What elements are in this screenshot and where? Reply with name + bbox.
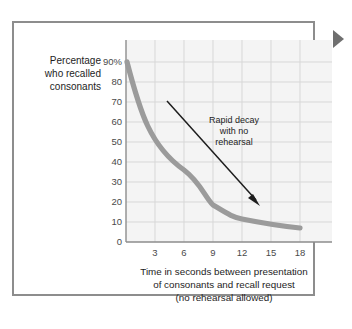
y-axis-title-line-1: Percentage <box>50 55 102 66</box>
x-tick-9: 9 <box>210 247 215 258</box>
y-tick-80: 80 <box>111 76 122 87</box>
x-axis-title-line-1: Time in seconds between presentation <box>140 266 307 277</box>
y-tick-30: 30 <box>111 176 122 187</box>
y-tick-50: 50 <box>111 136 122 147</box>
x-tick-15: 15 <box>266 247 277 258</box>
y-axis-title-line-3: consonants <box>50 81 101 92</box>
y-axis-title-line-2: who recalled <box>44 68 101 79</box>
y-axis-title: Percentage who recalled consonants <box>44 55 102 92</box>
y-tick-90: 90% <box>103 56 123 67</box>
x-tick-18: 18 <box>295 247 306 258</box>
x-tick-12: 12 <box>237 247 248 258</box>
x-axis-title: Time in seconds between presentation of … <box>140 266 307 303</box>
y-axis-tick-labels: 90% 80 70 60 50 40 30 20 10 0 <box>103 56 123 247</box>
annotation-line-2: with no <box>219 126 249 136</box>
annotation-line-3: rehearsal <box>215 137 253 147</box>
y-tick-60: 60 <box>111 116 122 127</box>
x-axis-title-line-2: of consonants and recall request <box>153 279 295 290</box>
y-tick-10: 10 <box>111 216 122 227</box>
x-tick-6: 6 <box>181 247 186 258</box>
x-axis-title-line-3: (no rehearsal allowed) <box>176 292 273 303</box>
y-tick-0: 0 <box>117 236 122 247</box>
y-tick-40: 40 <box>111 156 122 167</box>
y-tick-20: 20 <box>111 196 122 207</box>
annotation-line-1: Rapid decay <box>209 115 260 125</box>
x-axis-tick-labels: 3 6 9 12 15 18 <box>152 247 305 258</box>
chart-canvas: 90% 80 70 60 50 40 30 20 10 0 3 6 9 12 1… <box>0 0 352 329</box>
x-tick-3: 3 <box>152 247 157 258</box>
y-tick-70: 70 <box>111 96 122 107</box>
